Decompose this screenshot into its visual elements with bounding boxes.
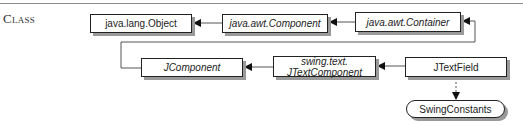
interface-label: SwingConstants <box>419 104 491 115</box>
class-box-container: java.awt.Container <box>355 12 461 32</box>
interface-box-swingconstants: SwingConstants <box>406 100 505 118</box>
class-label-line1: swing.text. <box>301 56 348 67</box>
class-label: JComponent <box>164 62 221 73</box>
class-box-component: java.awt.Component <box>222 14 328 33</box>
class-label: java.lang.Object <box>105 18 177 29</box>
class-label: java.awt.Component <box>229 18 320 29</box>
class-label: JTextField <box>433 62 478 73</box>
class-label: java.awt.Container <box>367 17 450 28</box>
class-box-object: java.lang.Object <box>90 14 192 33</box>
class-box-jtextfield: JTextField <box>405 57 507 77</box>
class-label-line2: JTextComponent <box>287 67 362 78</box>
class-box-jtextcomponent: swing.text. JTextComponent <box>273 56 376 77</box>
class-box-jcomponent: JComponent <box>141 58 243 77</box>
